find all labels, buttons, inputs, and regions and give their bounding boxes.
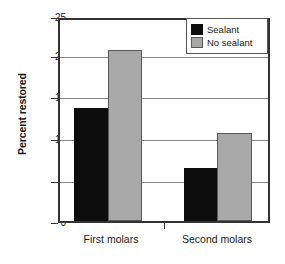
- gridline-15: [60, 98, 268, 99]
- legend-item-sealant: Sealant: [191, 23, 263, 36]
- y-tick-mark-10: [51, 140, 58, 141]
- y-tick-mark-20: [51, 57, 58, 58]
- gridline-20: [60, 57, 268, 58]
- legend-swatch-no-sealant-icon: [191, 37, 203, 48]
- x-tick-label-first-molars: First molars: [56, 233, 166, 245]
- x-tick-label-second-molars: Second molars: [162, 233, 272, 245]
- bar-first-molars-no-sealant: [108, 50, 142, 221]
- y-tick-mark-5: [51, 182, 58, 183]
- legend: Sealant No sealant: [186, 18, 268, 54]
- legend-swatch-sealant-icon: [191, 24, 203, 35]
- y-axis-title: Percent restored: [16, 49, 28, 179]
- y-tick-mark-15: [51, 98, 58, 99]
- legend-label-no-sealant: No sealant: [207, 37, 252, 48]
- bar-second-molars-sealant: [184, 168, 217, 221]
- legend-item-no-sealant: No sealant: [191, 36, 263, 49]
- legend-label-sealant: Sealant: [207, 24, 239, 35]
- bar-chart: Percent restored 25 20 15 10 5 0 First m…: [0, 0, 285, 264]
- x-tick-mark-mid: [164, 223, 165, 229]
- bar-second-molars-no-sealant: [217, 133, 252, 221]
- y-tick-mark-25: [51, 18, 58, 19]
- y-tick-mark-0: [51, 223, 58, 224]
- bar-first-molars-sealant: [74, 108, 108, 221]
